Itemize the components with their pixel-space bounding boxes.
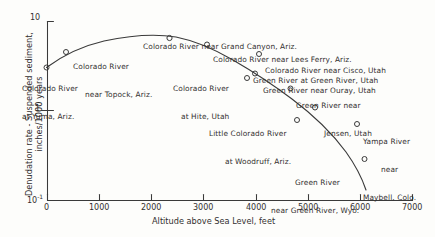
annotation-jensen-line2: Jensen, Utah: [296, 129, 372, 138]
chart-figure: 10 1 10-1 Denudation rate - Suspended se…: [0, 0, 435, 237]
annotation-green-wyo: Green River near Green River, Wyo.: [271, 160, 359, 234]
annotation-yuma-line1: Colorado River: [22, 84, 78, 93]
x-tick-label-4000: 4000: [246, 203, 266, 212]
annotation-yuma-line2: at Yuma, Ariz.: [22, 112, 78, 121]
annotation-maybell-line2: near: [363, 165, 416, 174]
annotation-green-wyo-line2: near Green River, Wyo.: [271, 206, 359, 215]
annotation-green-wyo-line1: Green River: [271, 178, 359, 187]
annotation-maybell: Yampa River near Maybell, Colo.: [363, 119, 416, 220]
x-tick-label-0: 0: [44, 203, 49, 212]
annotation-hite-line1: Colorado River: [173, 84, 229, 93]
annotation-topock: Colorado River near Topock, Ariz.: [73, 44, 152, 118]
x-tick-label-2000: 2000: [141, 203, 161, 212]
annotation-woodruff-line1: Little Colorado River: [209, 129, 291, 138]
x-tick-label-1000: 1000: [89, 203, 109, 212]
x-tick-label-3000: 3000: [193, 203, 213, 212]
annotation-topock-line2: near Topock, Ariz.: [73, 90, 152, 99]
point-topock: [64, 50, 69, 55]
x-axis-title: Altitude above Sea Level, feet: [152, 216, 275, 226]
annotation-topock-line1: Colorado River: [73, 62, 152, 71]
annotation-yuma: Colorado River at Yuma, Ariz.: [22, 66, 78, 140]
annotation-maybell-line3: Maybell, Colo.: [363, 193, 416, 202]
annotation-jensen: Green River near Jensen, Utah: [296, 83, 372, 157]
annotation-jensen-line1: Green River near: [296, 101, 372, 110]
annotation-maybell-line1: Yampa River: [363, 137, 416, 146]
